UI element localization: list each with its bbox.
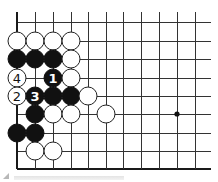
white-stone-icon	[62, 69, 80, 87]
black-stone	[62, 87, 80, 105]
black-stone	[44, 87, 62, 105]
white-stone-icon	[62, 105, 80, 123]
move-number-label: 3	[30, 89, 39, 104]
move-number-label: 1	[48, 71, 57, 86]
black-stone-icon	[26, 105, 44, 123]
go-board: 4123	[0, 0, 218, 182]
black-stone-move-1: 1	[44, 69, 62, 87]
black-stone-move-3: 3	[26, 87, 44, 105]
white-stone-icon	[97, 105, 115, 123]
black-stone	[26, 50, 44, 68]
star-point-icon	[174, 111, 179, 116]
black-stone	[8, 50, 26, 68]
white-stone-icon	[8, 32, 26, 50]
white-stone	[8, 32, 26, 50]
black-stone-icon	[44, 87, 62, 105]
black-stone-icon	[8, 124, 26, 142]
black-stone-icon	[26, 124, 44, 142]
white-stone	[44, 142, 62, 160]
white-stone-icon	[44, 142, 62, 160]
white-stone	[26, 32, 44, 50]
black-stone-icon	[26, 50, 44, 68]
white-stone	[62, 69, 80, 87]
white-stone-icon	[62, 32, 80, 50]
black-stone	[26, 124, 44, 142]
resize-corner-icon	[3, 173, 9, 179]
black-stone	[26, 105, 44, 123]
white-stone-icon	[26, 142, 44, 160]
white-stone-move-2: 2	[8, 87, 26, 105]
white-stone-icon	[79, 87, 97, 105]
white-stone-icon	[62, 50, 80, 68]
white-stone	[62, 32, 80, 50]
white-stone	[62, 50, 80, 68]
move-number-label: 4	[13, 71, 21, 86]
white-stone	[26, 142, 44, 160]
white-stone	[97, 105, 115, 123]
white-stone-move-4: 4	[8, 69, 26, 87]
black-stone	[44, 50, 62, 68]
black-stone-icon	[44, 50, 62, 68]
white-stone	[79, 87, 97, 105]
bottom-scroll-shadow	[14, 176, 124, 180]
black-stone	[8, 124, 26, 142]
white-stone-icon	[26, 32, 44, 50]
white-stone	[44, 32, 62, 50]
white-stone-icon	[44, 105, 62, 123]
move-number-label: 2	[13, 89, 21, 104]
black-stone-icon	[62, 87, 80, 105]
white-stone-icon	[44, 32, 62, 50]
star-points	[174, 111, 179, 116]
black-stone-icon	[8, 50, 26, 68]
white-stone	[62, 105, 80, 123]
white-stone	[44, 105, 62, 123]
